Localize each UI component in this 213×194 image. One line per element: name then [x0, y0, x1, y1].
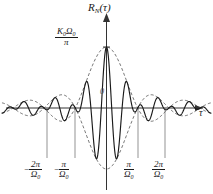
tick-fraction-3: 2π Ω0: [152, 160, 165, 180]
y-axis-label: RN(τ): [88, 2, 111, 15]
x-tick-label-neg-2pi: − 2π Ω0: [24, 160, 42, 180]
tick-denominator-2: Ω0: [124, 170, 134, 180]
x-tick-label-pos-2pi: 2π Ω0: [152, 160, 165, 180]
peak-num-Omega-sub: 0: [73, 31, 76, 37]
tick-fraction-2: π Ω0: [124, 160, 134, 180]
tick-fraction-0: 2π Ω0: [29, 160, 42, 180]
x-tick-label-neg-pi: − π Ω0: [54, 160, 69, 180]
peak-value-fraction: K0Ω0 π: [55, 27, 78, 47]
origin-label: 0: [100, 88, 104, 96]
y-axis-label-argument: (τ): [99, 1, 110, 13]
tick-den-sub-1: 0: [66, 174, 69, 180]
tick-den-sub-0: 0: [37, 174, 40, 180]
tick-den-sub-3: 0: [160, 174, 163, 180]
tick-den-sub-2: 0: [131, 174, 134, 180]
peak-value-denominator: π: [55, 38, 78, 47]
peak-value-label: K0Ω0 π: [55, 27, 78, 47]
tick-fraction-1: π Ω0: [59, 160, 69, 180]
figure-container: RN(τ) τ 0 K0Ω0 π − 2π Ω0 − π Ω0 π Ω0 2π …: [0, 0, 213, 194]
tick-denominator-1: Ω0: [59, 170, 69, 180]
tick-denominator-0: Ω0: [29, 170, 42, 180]
x-axis-label: τ: [199, 108, 203, 118]
x-tick-label-pos-pi: π Ω0: [124, 160, 134, 180]
y-axis-label-main: R: [88, 1, 95, 13]
tick-denominator-3: Ω0: [152, 170, 165, 180]
